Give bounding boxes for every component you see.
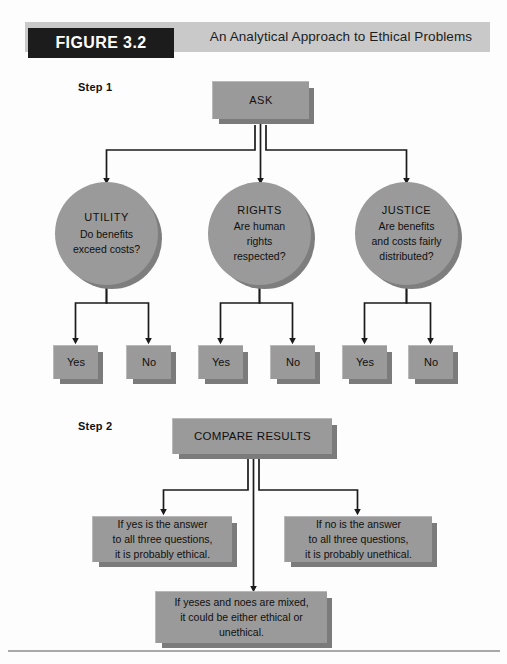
figure-tag: FIGURE 3.2 [28,28,174,58]
node-utility-line2: exceed costs? [73,242,140,257]
result-unethical-line2: to all three questions, [305,532,412,547]
node-rights[interactable]: RIGHTS Are human rights respected? [208,182,311,285]
node-justice-line2: and costs fairly [371,234,441,249]
bottom-divider [8,650,500,652]
answer-label: No [142,355,156,369]
node-utility-title: UTILITY [84,210,128,226]
node-justice-line1: Are benefits [378,219,434,234]
answer-box-rights-no[interactable]: No [270,345,315,379]
node-ask-label: ASK [249,93,273,107]
answer-box-justice-yes[interactable]: Yes [342,345,387,379]
node-utility-line1: Do benefits [80,227,133,242]
result-unethical-line1: If no is the answer [305,517,412,532]
result-box-unethical[interactable]: If no is the answer to all three questio… [284,516,432,562]
result-ethical-line1: If yes is the answer [113,517,213,532]
node-compare-results-label: COMPARE RESULTS [194,429,311,444]
answer-box-utility-no[interactable]: No [126,345,171,379]
answer-label: Yes [356,355,374,369]
answer-box-justice-no[interactable]: No [408,345,453,379]
node-justice-line3: distributed? [379,249,433,264]
step-1-label: Step 1 [78,81,112,93]
result-ethical-line3: it is probably ethical. [113,547,213,562]
result-mixed-line2: it could be either ethical or [174,610,308,625]
answer-box-utility-yes[interactable]: Yes [53,345,98,379]
node-compare-results[interactable]: COMPARE RESULTS [172,418,332,454]
answer-label: Yes [212,355,230,369]
result-mixed-line3: unethical. [174,625,308,640]
result-box-mixed[interactable]: If yeses and noes are mixed, it could be… [155,591,327,643]
node-rights-line3: respected? [234,249,286,264]
figure-page: FIGURE 3.2 An Analytical Approach to Eth… [0,0,507,664]
node-justice-title: JUSTICE [382,203,431,219]
step-2-label: Step 2 [78,420,112,432]
result-box-ethical[interactable]: If yes is the answer to all three questi… [92,516,232,562]
figure-tag-label: FIGURE 3.2 [55,34,146,52]
answer-label: No [286,355,300,369]
answer-box-rights-yes[interactable]: Yes [198,345,243,379]
node-rights-title: RIGHTS [237,203,282,219]
figure-title: An Analytical Approach to Ethical Proble… [196,25,486,47]
answer-label: No [424,355,438,369]
node-justice[interactable]: JUSTICE Are benefits and costs fairly di… [355,182,458,285]
answer-label: Yes [67,355,85,369]
node-utility[interactable]: UTILITY Do benefits exceed costs? [55,182,158,285]
node-rights-line2: rights [247,234,273,249]
result-mixed-line1: If yeses and noes are mixed, [174,595,308,610]
result-ethical-line2: to all three questions, [113,532,213,547]
node-ask[interactable]: ASK [212,81,309,119]
result-unethical-line3: it is probably unethical. [305,547,412,562]
node-rights-line1: Are human [234,219,285,234]
